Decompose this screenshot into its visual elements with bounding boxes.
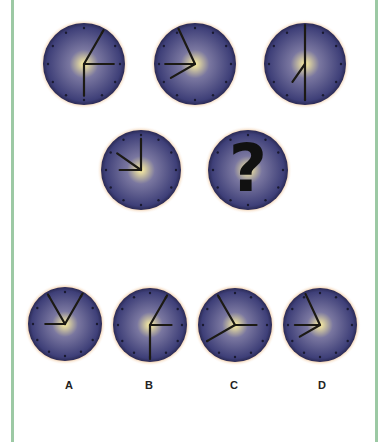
svg-text:?: ? — [229, 130, 267, 207]
option-label-a: A — [65, 379, 73, 391]
option-clock-a[interactable] — [22, 281, 108, 371]
sequence-clock-3 — [258, 17, 352, 115]
option-label-d: D — [318, 379, 326, 391]
sequence-clock-2 — [148, 17, 242, 115]
option-clock-c[interactable] — [192, 282, 278, 372]
question-clock: ? — [202, 124, 294, 220]
right-frame-line — [375, 0, 378, 442]
option-label-b: B — [145, 379, 153, 391]
sequence-clock-4 — [95, 124, 187, 220]
option-label-c: C — [230, 379, 238, 391]
left-frame-line — [11, 0, 14, 442]
sequence-clock-1 — [37, 17, 131, 115]
option-clock-d[interactable] — [277, 282, 363, 372]
option-clock-b[interactable] — [107, 282, 193, 372]
